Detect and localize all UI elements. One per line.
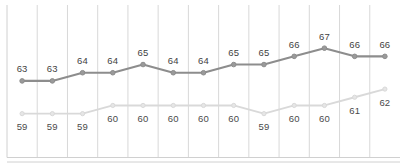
series-line-lower-series — [22, 89, 385, 114]
data-label: 64 — [107, 55, 118, 66]
data-point-marker — [383, 87, 387, 91]
data-point-marker — [111, 70, 116, 75]
data-label: 60 — [198, 112, 209, 123]
data-label: 65 — [138, 47, 149, 58]
data-point-marker — [231, 62, 236, 67]
data-label: 60 — [168, 112, 179, 123]
data-point-marker — [50, 79, 55, 84]
data-point-marker — [50, 112, 54, 116]
data-label: 59 — [77, 121, 88, 132]
data-point-marker — [262, 112, 266, 116]
data-label: 61 — [349, 104, 360, 115]
data-point-marker — [262, 62, 267, 67]
data-label: 67 — [319, 30, 330, 41]
data-point-marker — [292, 54, 297, 59]
data-label: 63 — [47, 63, 58, 74]
chart-plot-area — [0, 0, 405, 167]
data-point-marker — [322, 46, 327, 51]
data-point-marker — [232, 103, 236, 107]
data-point-marker — [80, 112, 84, 116]
data-point-marker — [201, 70, 206, 75]
data-point-marker — [383, 54, 388, 59]
data-label: 59 — [17, 121, 28, 132]
data-label: 64 — [168, 55, 179, 66]
data-label: 60 — [289, 112, 300, 123]
gridlines-group — [37, 5, 370, 158]
data-point-marker — [322, 103, 326, 107]
data-label: 62 — [379, 96, 390, 107]
data-point-marker — [201, 103, 205, 107]
data-point-marker — [20, 79, 25, 84]
data-point-marker — [20, 112, 24, 116]
data-point-marker — [80, 70, 85, 75]
data-label: 59 — [258, 121, 269, 132]
data-label: 66 — [379, 38, 390, 49]
line-chart: 6363646465646465656667666659595960606060… — [0, 0, 405, 167]
data-point-marker — [111, 103, 115, 107]
data-label: 65 — [258, 47, 269, 58]
data-point-marker — [171, 70, 176, 75]
data-point-marker — [292, 103, 296, 107]
data-point-marker — [353, 95, 357, 99]
axis-lines-group — [7, 5, 400, 162]
data-label: 66 — [289, 38, 300, 49]
data-label: 60 — [107, 112, 118, 123]
data-label: 60 — [138, 112, 149, 123]
data-label: 63 — [17, 63, 28, 74]
data-point-marker — [141, 62, 146, 67]
data-point-marker — [352, 54, 357, 59]
data-label: 60 — [319, 112, 330, 123]
data-label: 64 — [198, 55, 209, 66]
data-label: 64 — [77, 55, 88, 66]
data-label: 59 — [47, 121, 58, 132]
data-label: 66 — [349, 38, 360, 49]
data-point-marker — [141, 103, 145, 107]
data-label: 65 — [228, 47, 239, 58]
data-label: 60 — [228, 112, 239, 123]
data-point-marker — [171, 103, 175, 107]
